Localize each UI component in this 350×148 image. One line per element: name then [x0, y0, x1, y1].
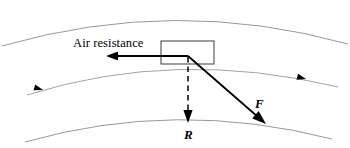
outer-upper-arc [2, 20, 348, 46]
physics-diagram-figure: Air resistance F R [0, 0, 350, 148]
track-arcs-group [2, 20, 348, 142]
air-resistance-vector [106, 52, 188, 61]
diagram-canvas [0, 0, 350, 148]
trajectory-direction-markers [33, 74, 306, 93]
air-resistance-arrowhead-icon [106, 52, 118, 61]
trajectory-arc [27, 69, 338, 95]
trajectory-marker-right-icon [297, 74, 307, 82]
force-f-vector [188, 56, 269, 128]
reaction-r-vector [183, 57, 192, 123]
reaction-r-arrowhead-icon [183, 110, 192, 123]
force-f-vector-line [188, 56, 258, 117]
outer-lower-arc [25, 120, 332, 142]
